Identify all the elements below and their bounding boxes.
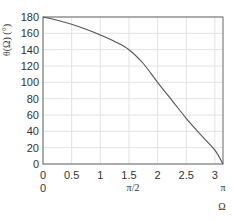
y-tick-label: 140 — [21, 44, 39, 56]
y-axis-label: θ(Ω) (°) — [1, 24, 13, 56]
y-tick-label: 80 — [27, 93, 39, 105]
y-tick-label: 180 — [21, 11, 39, 23]
y-tick-label: 0 — [33, 158, 39, 170]
y-tick-label: 160 — [21, 27, 39, 39]
x-tick-label: 1 — [97, 169, 103, 181]
y-tick-label: 20 — [27, 142, 39, 154]
x-secondary-pi-half: π/2 — [127, 182, 140, 193]
theta-curve — [43, 17, 223, 164]
x-tick-label: 0.5 — [64, 169, 79, 181]
y-tick-label: 100 — [21, 76, 39, 88]
x-tick-label: 2 — [155, 169, 161, 181]
y-tick-label: 120 — [21, 60, 39, 72]
chart: 020406080100120140160180 00.511.522.53 0… — [0, 0, 233, 222]
x-tick-label: 2.5 — [179, 169, 194, 181]
x-tick-label: 1.5 — [121, 169, 136, 181]
grid-lines — [43, 17, 223, 164]
x-tick-labels: 00.511.522.53 — [40, 169, 218, 181]
y-tick-label: 40 — [27, 125, 39, 137]
x-axis-label: Ω — [218, 201, 225, 212]
y-tick-labels: 020406080100120140160180 — [21, 11, 39, 170]
x-secondary-pi: π — [220, 182, 225, 193]
y-tick-label: 60 — [27, 109, 39, 121]
x-secondary-0: 0 — [40, 182, 46, 194]
plot-frame — [43, 17, 223, 164]
x-tick-label: 0 — [40, 169, 46, 181]
x-tick-label: 3 — [212, 169, 218, 181]
